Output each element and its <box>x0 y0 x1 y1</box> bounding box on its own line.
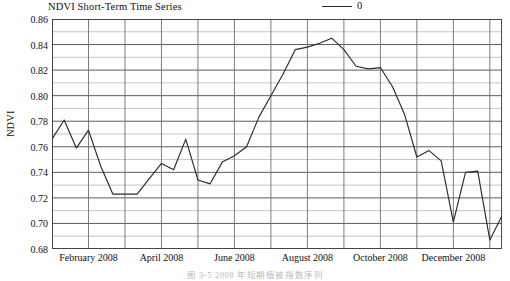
x-axis-tick-label: June 2008 <box>214 252 255 263</box>
y-axis-tick-label: 0.76 <box>31 141 49 152</box>
y-axis-tick-label: 0.84 <box>31 39 49 50</box>
x-axis-tick-label: February 2008 <box>59 252 118 263</box>
y-axis-tick-label: 0.68 <box>31 244 49 255</box>
y-axis-tick-label: 0.74 <box>31 167 49 178</box>
figure-caption: 图 3-5 2008 年短期植被指数序列 <box>0 268 510 281</box>
y-axis-tick-label: 0.80 <box>31 90 49 101</box>
plot-canvas <box>52 19 502 249</box>
legend-line-swatch-0 <box>322 6 352 7</box>
ndvi-time-series-figure: NDVI Short-Term Time Series 0 NDVI 0.680… <box>0 0 510 281</box>
y-axis-tick-label: 0.72 <box>31 192 49 203</box>
y-axis-tick-label: 0.78 <box>31 116 49 127</box>
x-axis-tick-label: April 2008 <box>140 252 184 263</box>
chart-title: NDVI Short-Term Time Series <box>48 1 182 12</box>
legend-label-0: 0 <box>357 1 362 12</box>
y-axis-tick-label: 0.82 <box>31 65 49 76</box>
y-axis-tick-label: 0.86 <box>31 14 49 25</box>
y-axis-label: NDVI <box>5 96 16 152</box>
x-axis-tick-label: October 2008 <box>353 252 408 263</box>
y-axis-tick-label: 0.70 <box>31 218 49 229</box>
chart-legend: 0 <box>322 1 362 12</box>
x-axis-tick-label: December 2008 <box>422 252 486 263</box>
x-axis-tick-label: August 2008 <box>282 252 333 263</box>
plot-area: 0.680.700.720.740.760.780.800.820.840.86… <box>52 19 502 249</box>
